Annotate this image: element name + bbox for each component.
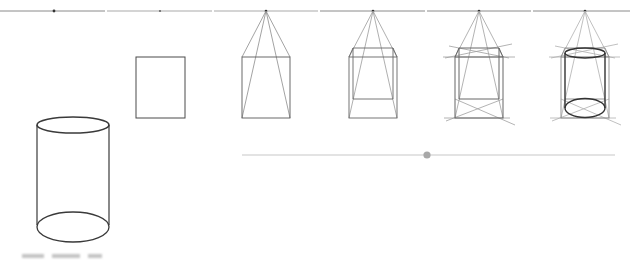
panel-vanishing-lines <box>242 11 290 118</box>
cylinder-bottom-ellipse <box>37 212 109 242</box>
caption-text <box>22 254 132 261</box>
front-rectangle <box>136 57 185 118</box>
panel-ellipses-in-box <box>549 11 621 125</box>
vanishing-point <box>159 10 161 12</box>
panel-face-diagonals <box>443 11 515 125</box>
panel-front-rectangle <box>136 57 185 118</box>
panel-finished-cylinder <box>37 117 109 242</box>
vanishing-point <box>53 10 56 13</box>
panel-box-back-face <box>349 11 397 118</box>
step-slider[interactable] <box>242 151 615 158</box>
slider-thumb[interactable] <box>423 151 430 158</box>
perspective-illustration <box>0 0 630 261</box>
cylinder-top-ellipse <box>37 117 109 133</box>
top-ellipse <box>565 48 605 58</box>
